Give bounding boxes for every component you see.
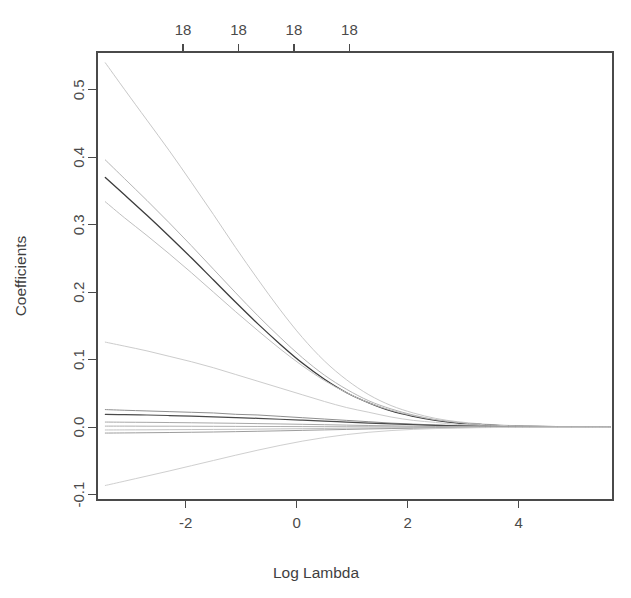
- x-tick-label-0: -2: [179, 514, 192, 531]
- x-tick-label-2: 2: [404, 514, 412, 531]
- top-axis-nonzero-counts: 18181818: [175, 21, 358, 52]
- y-tick-label-6: 0.5: [70, 79, 87, 100]
- y-tick-label-4: 0.3: [70, 214, 87, 235]
- x-tick-label-3: 4: [515, 514, 523, 531]
- coefficient-curves-layer: [105, 63, 610, 486]
- y-axis: -0.10.00.10.20.30.40.5: [70, 79, 97, 507]
- x-tick-label-1: 0: [293, 514, 301, 531]
- y-axis-title: Coefficients: [12, 235, 29, 316]
- top-tick-label-0: 18: [175, 21, 192, 38]
- y-tick-label-1: 0.0: [70, 417, 87, 438]
- y-tick-label-2: 0.1: [70, 349, 87, 370]
- x-axis: -2024: [179, 500, 523, 531]
- top-tick-label-1: 18: [230, 21, 247, 38]
- coefficient-path-6: [105, 410, 610, 428]
- top-tick-label-2: 18: [286, 21, 303, 38]
- coefficient-path-1: [105, 63, 610, 427]
- x-axis-title: Log Lambda: [273, 564, 360, 581]
- top-tick-label-3: 18: [341, 21, 358, 38]
- coefficient-path-plot: -2024 -0.10.00.10.20.30.40.5 18181818 Lo…: [0, 0, 631, 598]
- coefficient-path-2: [105, 160, 610, 427]
- coefficient-path-12: [105, 427, 610, 485]
- y-tick-label-5: 0.4: [70, 147, 87, 168]
- y-tick-label-3: 0.2: [70, 282, 87, 303]
- chart-canvas: -2024 -0.10.00.10.20.30.40.5 18181818 Lo…: [0, 0, 631, 598]
- coefficient-path-5: [105, 342, 610, 427]
- y-tick-label-0: -0.1: [70, 482, 87, 508]
- coefficient-path-3: [105, 177, 610, 427]
